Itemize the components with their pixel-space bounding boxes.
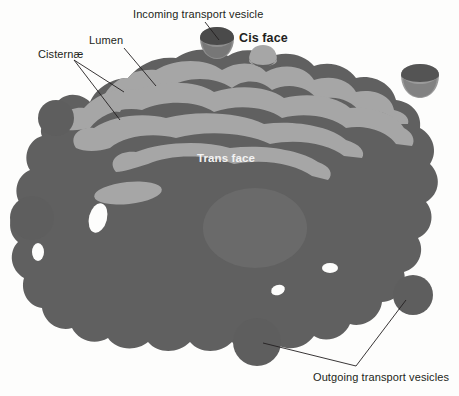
interior-gap-right — [322, 263, 338, 273]
interior-gap-lower — [32, 243, 44, 261]
vesicle-lower-center — [233, 318, 281, 366]
cis-face-budding-vesicle — [249, 45, 277, 67]
golgi-body-group — [10, 45, 438, 351]
label-outgoing-transport-vesicles: Outgoing transport vesicles — [313, 371, 449, 383]
right-dome-vesicle — [401, 64, 439, 98]
label-incoming-transport-vesicle: Incoming transport vesicle — [133, 8, 263, 20]
label-trans-face: Trans face — [197, 152, 255, 164]
vesicle-mid-left — [10, 196, 54, 240]
label-cis-face: Cis face — [239, 31, 288, 45]
leader-cisternae-upper — [74, 60, 124, 92]
vesicle-upper-left — [38, 100, 74, 136]
golgi-apparatus-diagram: Cisternæ Lumen Incoming transport vesicl… — [0, 0, 459, 396]
label-cisternae: Cisternæ — [38, 48, 83, 60]
label-lumen: Lumen — [89, 34, 123, 46]
trans-body-shading — [203, 188, 307, 268]
